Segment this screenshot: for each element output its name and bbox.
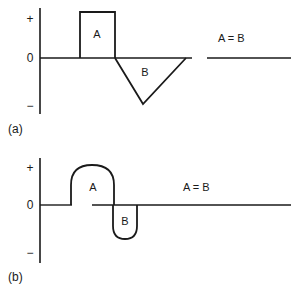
equivalence-annotation-a: A = B <box>218 33 245 44</box>
shape-label-b-rounded: B <box>117 216 133 227</box>
panel-b-plot <box>0 143 293 287</box>
panel-b: + 0 − A B A = B (b) <box>0 143 293 287</box>
panel-caption-a: (a) <box>8 123 23 135</box>
waveform-equivalence-figure: + 0 − A B A = B (a) + 0 − A B A = B (b) <box>0 0 293 287</box>
equivalence-annotation-b: A = B <box>183 182 210 193</box>
axis-label-minus-b: − <box>22 247 38 259</box>
axis-label-plus-a: + <box>22 13 38 25</box>
axis-label-minus-a: − <box>22 100 38 112</box>
shape-label-a-rectangle: A <box>89 29 105 40</box>
panel-a: + 0 − A B A = B (a) <box>0 0 293 143</box>
axis-label-zero-b: 0 <box>22 199 38 211</box>
pulse-b-triangle <box>115 58 186 104</box>
panel-caption-b: (b) <box>8 271 23 283</box>
shape-label-b-triangle: B <box>137 67 153 78</box>
axis-label-plus-b: + <box>22 162 38 174</box>
axis-label-zero-a: 0 <box>22 52 38 64</box>
shape-label-a-rounded: A <box>85 182 101 193</box>
